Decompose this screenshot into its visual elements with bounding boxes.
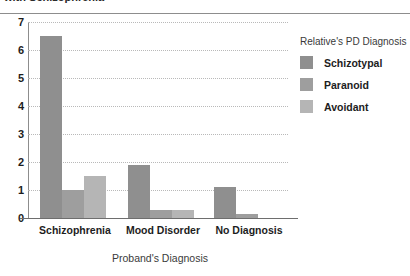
bar (150, 210, 172, 218)
bar (214, 187, 236, 218)
chart-title-text: with Schizophrenia (4, 0, 104, 3)
y-axis-tick-label: 4 (2, 100, 24, 112)
x-axis-title: Proband's Diagnosis (0, 252, 320, 264)
legend-swatch-icon (300, 56, 313, 69)
legend-label: Schizotypal (324, 57, 382, 69)
legend-label: Avoidant (324, 101, 369, 113)
x-axis-label: No Diagnosis (202, 224, 296, 236)
x-axis-label: Schizophrenia (28, 224, 122, 236)
x-axis-label: Mood Disorder (116, 224, 210, 236)
chart-title-clipped: with Schizophrenia (0, 0, 410, 9)
y-axis-tick-label: 2 (2, 156, 24, 168)
y-axis-tick-label: 1 (2, 184, 24, 196)
bar (62, 190, 84, 218)
y-axis-tick-labels: 01234567 (0, 22, 24, 219)
bar (172, 210, 194, 218)
y-axis-tick-label: 3 (2, 128, 24, 140)
header-divider (0, 13, 410, 14)
legend-item[interactable]: Avoidant (300, 100, 408, 113)
legend-item[interactable]: Paranoid (300, 78, 408, 91)
bar-group (128, 22, 198, 218)
legend-label: Paranoid (324, 79, 369, 91)
legend-items: SchizotypalParanoidAvoidant (300, 56, 408, 113)
y-axis-tick-label: 6 (2, 44, 24, 56)
legend-title: Relative's PD Diagnosis (300, 36, 408, 47)
y-axis-tick-label: 5 (2, 72, 24, 84)
bar-group (40, 22, 110, 218)
bar-group (214, 22, 284, 218)
legend: Relative's PD Diagnosis SchizotypalParan… (300, 36, 408, 122)
plot-area (28, 22, 288, 218)
y-axis-tick-label: 7 (2, 16, 24, 28)
bar (128, 165, 150, 218)
bar (84, 176, 106, 218)
legend-swatch-icon (300, 100, 313, 113)
x-axis-line (20, 218, 298, 219)
legend-item[interactable]: Schizotypal (300, 56, 408, 69)
bar (40, 36, 62, 218)
legend-swatch-icon (300, 78, 313, 91)
